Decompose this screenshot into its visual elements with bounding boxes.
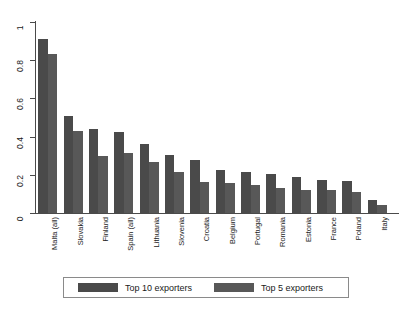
bar — [377, 205, 387, 213]
bar-group — [89, 22, 108, 213]
legend-label-top-10: Top 10 exporters — [125, 283, 192, 293]
y-axis-tick — [30, 98, 35, 99]
bar-group — [165, 22, 184, 213]
bar — [276, 188, 286, 213]
bar — [292, 177, 302, 213]
y-axis-tick-label: 0.2 — [12, 170, 28, 180]
x-axis-label: Italy — [381, 217, 389, 231]
bar — [114, 132, 124, 213]
x-axis-line — [31, 213, 399, 214]
y-axis-tick — [30, 213, 35, 214]
y-axis-tick — [30, 60, 35, 61]
bar-group — [241, 22, 260, 213]
y-axis-tick — [30, 137, 35, 138]
bar — [368, 200, 378, 213]
bar — [200, 182, 210, 214]
x-axis-label: Slovakia — [77, 217, 85, 245]
x-axis-label: Romania — [279, 217, 287, 247]
bar — [64, 116, 74, 213]
bar — [98, 156, 108, 213]
bar — [48, 54, 58, 213]
y-axis-tick — [30, 22, 35, 23]
x-axis-label: Finland — [102, 217, 110, 242]
x-axis-label: France — [330, 217, 338, 240]
x-axis-label: Poland — [355, 217, 363, 240]
bar — [251, 185, 261, 213]
bar-group — [140, 22, 159, 213]
bar — [317, 180, 327, 213]
legend-entry-top-5: Top 5 exporters — [214, 278, 323, 297]
y-axis-tick-label: 0.8 — [12, 55, 28, 65]
bar — [124, 153, 134, 213]
bar-group — [216, 22, 235, 213]
bar — [140, 144, 150, 213]
bar — [73, 131, 83, 213]
y-axis-tick-label: 0 — [12, 208, 28, 218]
bar-group — [292, 22, 311, 213]
y-axis-tick-label: 0.6 — [12, 93, 28, 103]
bar-group — [266, 22, 285, 213]
bar-group — [64, 22, 83, 213]
legend-label-top-5: Top 5 exporters — [261, 283, 323, 293]
bar-group — [342, 22, 361, 213]
legend-swatch-top-5 — [214, 283, 254, 292]
x-axis-label: Spain (all) — [127, 217, 135, 251]
bar — [149, 162, 159, 213]
bar — [216, 170, 226, 213]
legend-swatch-top-10 — [78, 283, 118, 292]
x-axis-label: Malta (all) — [51, 217, 59, 250]
bar — [352, 192, 362, 213]
bar — [301, 190, 311, 213]
y-axis-tick — [30, 175, 35, 176]
bar-group — [317, 22, 336, 213]
bar — [89, 129, 99, 213]
bar-group — [190, 22, 209, 213]
x-axis-label: Croatia — [203, 217, 211, 241]
bar-group — [114, 22, 133, 213]
y-axis-tick-label: 1 — [12, 17, 28, 27]
bar — [225, 183, 235, 213]
legend-entry-top-10: Top 10 exporters — [78, 278, 192, 297]
x-axis-label: Slovenia — [178, 217, 186, 246]
y-axis-tick-label: 0.4 — [12, 132, 28, 142]
bar-group — [368, 22, 387, 213]
x-axis-label: Estonia — [305, 217, 313, 242]
chart-legend: Top 10 exporters Top 5 exporters — [63, 277, 349, 298]
plot-area — [36, 22, 391, 213]
bar — [327, 190, 337, 213]
x-axis-label: Lithuania — [153, 217, 161, 247]
bar — [266, 174, 276, 213]
bar — [241, 172, 251, 213]
bar — [342, 181, 352, 213]
bar-group — [38, 22, 57, 213]
bar — [190, 160, 200, 213]
bar-chart-figure: 00.20.40.60.81 Malta (all)SlovakiaFinlan… — [0, 0, 411, 315]
x-axis-label: Portugal — [254, 217, 262, 245]
x-axis-label: Belgium — [229, 217, 237, 244]
bar — [38, 39, 48, 213]
bar — [165, 155, 175, 213]
bar — [174, 172, 184, 213]
